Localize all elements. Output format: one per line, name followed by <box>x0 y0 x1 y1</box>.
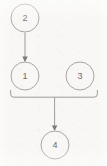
node-2-label: 2 <box>22 13 27 23</box>
node-2[interactable]: 2 <box>11 4 39 32</box>
node-1[interactable]: 1 <box>11 62 39 90</box>
node-3-label: 3 <box>77 71 82 81</box>
edge-bracket-1-3[interactable] <box>11 90 98 97</box>
edge-2-to-1-arrowhead <box>22 57 27 63</box>
node-4[interactable]: 4 <box>41 131 69 159</box>
node-4-label: 4 <box>52 140 57 150</box>
node-layer: 2 1 3 4 <box>11 4 94 159</box>
diagram-svg: 2 1 3 4 <box>0 0 107 166</box>
edge-layer <box>11 33 98 131</box>
edge-junction-to-4-arrowhead <box>52 125 57 131</box>
diagram-canvas: 2 1 3 4 <box>0 0 107 166</box>
edge-2-to-1[interactable] <box>22 33 27 63</box>
edge-bracket-path <box>11 90 98 97</box>
node-1-label: 1 <box>22 71 27 81</box>
edge-junction-to-4[interactable] <box>52 97 57 131</box>
node-3[interactable]: 3 <box>66 62 94 90</box>
